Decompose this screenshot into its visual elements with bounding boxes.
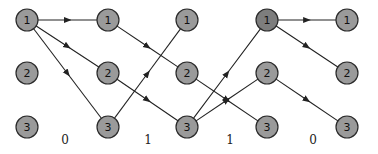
- node-col3-state1: 1: [256, 9, 278, 31]
- node-label: 2: [105, 67, 112, 80]
- node-col1-state1: 1: [97, 9, 119, 31]
- node-col2-state1: 1: [176, 9, 198, 31]
- node-label: 3: [344, 121, 351, 134]
- edge-3-1-to-4-2: [276, 79, 338, 121]
- node-col0-state1: 1: [16, 9, 38, 31]
- node-label: 3: [24, 121, 31, 134]
- node-col1-state3: 3: [97, 116, 119, 138]
- trellis-diagram: 123123123123123 0110: [0, 0, 378, 154]
- node-col3-state3: 3: [256, 116, 278, 138]
- edge-1-2-to-2-0: [115, 29, 181, 118]
- node-label: 3: [184, 121, 191, 134]
- node-label: 1: [344, 14, 351, 27]
- edge-3-0-to-4-1: [276, 26, 338, 67]
- node-label: 1: [184, 14, 191, 27]
- edge-1-0-to-2-1: [117, 26, 178, 67]
- node-label: 2: [264, 67, 271, 80]
- edge-2-2-to-3-0: [194, 29, 261, 118]
- node-label: 2: [184, 67, 191, 80]
- stage-label-0: 0: [61, 133, 69, 147]
- edge-0-0-to-1-2: [34, 29, 102, 118]
- edge-1-1-to-2-2: [117, 79, 178, 121]
- node-col4-state2: 2: [336, 62, 358, 84]
- node-label: 1: [264, 14, 271, 27]
- node-label: 1: [105, 14, 112, 27]
- node-label: 3: [264, 121, 271, 134]
- node-col0-state3: 3: [16, 116, 38, 138]
- node-label: 1: [24, 14, 31, 27]
- edge-0-0-to-1-1: [36, 26, 99, 67]
- node-label: 2: [344, 67, 351, 80]
- node-col2-state2: 2: [176, 62, 198, 84]
- stage-label-2: 1: [226, 133, 234, 147]
- stage-label-3: 0: [309, 133, 317, 147]
- node-col4-state3: 3: [336, 116, 358, 138]
- trellis-canvas: 123123123123123 0110: [0, 0, 378, 154]
- node-col0-state2: 2: [16, 62, 38, 84]
- node-col2-state3: 3: [176, 116, 198, 138]
- node-col3-state2: 2: [256, 62, 278, 84]
- node-col1-state2: 2: [97, 62, 119, 84]
- node-col4-state1: 1: [336, 9, 358, 31]
- node-label: 3: [105, 121, 112, 134]
- stage-label-1: 1: [144, 133, 152, 147]
- node-label: 2: [24, 67, 31, 80]
